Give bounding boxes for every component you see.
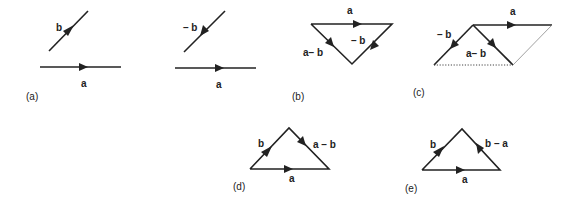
label-a: a bbox=[81, 78, 87, 89]
label-b: b bbox=[258, 138, 264, 149]
panel-a: b a (a) bbox=[26, 11, 121, 102]
panel-a-negated: – b a bbox=[175, 11, 256, 90]
panel-d: b a – b a (d) bbox=[233, 128, 336, 192]
label-a-minus-b: a – b bbox=[313, 139, 336, 150]
caption-e: (e) bbox=[405, 183, 417, 194]
label-a-minus-b: a– b bbox=[466, 48, 486, 59]
label-b-minus-a: b – a bbox=[485, 138, 508, 149]
label-a: a bbox=[462, 174, 468, 185]
vector-diagram: b a (a) – b a a – b a– b (b) a – b a– b … bbox=[0, 0, 580, 198]
caption-b: (b) bbox=[292, 91, 304, 102]
arrowhead-icon bbox=[284, 165, 293, 173]
label-a: a bbox=[510, 6, 516, 17]
label-neg-b: – b bbox=[351, 35, 365, 46]
label-neg-b: – b bbox=[437, 29, 451, 40]
caption-d: (d) bbox=[233, 181, 245, 192]
arrowhead-icon bbox=[200, 25, 209, 36]
arrowhead-icon bbox=[353, 20, 362, 28]
arrowhead-icon bbox=[456, 166, 465, 174]
panel-b: a – b a– b (b) bbox=[292, 5, 392, 102]
label-b: b bbox=[56, 22, 62, 33]
panel-c: a – b a– b (c) bbox=[413, 6, 552, 98]
arrowhead-icon bbox=[215, 64, 224, 72]
caption-c: (c) bbox=[413, 87, 425, 98]
arrowhead-icon bbox=[507, 21, 516, 29]
arrowhead-icon bbox=[79, 63, 88, 71]
caption-a: (a) bbox=[26, 91, 38, 102]
label-a: a bbox=[216, 79, 222, 90]
label-a: a bbox=[347, 5, 353, 16]
panel-e: b b – a a (e) bbox=[405, 129, 508, 194]
label-neg-b: – b bbox=[183, 22, 197, 33]
label-b: b bbox=[430, 139, 436, 150]
parallelogram-side bbox=[513, 25, 552, 65]
label-a-minus-b: a– b bbox=[303, 47, 323, 58]
label-a: a bbox=[289, 173, 295, 184]
